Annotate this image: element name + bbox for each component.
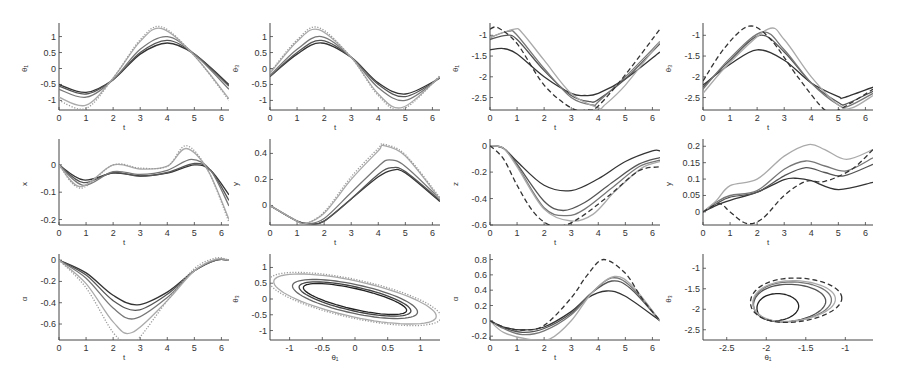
- x-tick-label: 3: [569, 113, 574, 123]
- x-tick-label: 1: [728, 228, 733, 238]
- x-axis-label: t: [554, 238, 557, 247]
- x-tick-label: 0: [267, 113, 272, 123]
- x-tick-label: 3: [138, 113, 143, 123]
- series-line-s1: [490, 48, 660, 95]
- y-axis-label: θ₃: [231, 65, 240, 73]
- y-axis-label: θ₁: [20, 65, 29, 72]
- series-line-s5: [59, 258, 229, 344]
- x-axis-label: θ₁: [764, 353, 771, 362]
- subplot-r2c1: 0123456-0.2-0.10tx: [20, 139, 229, 247]
- series-line-s4: [490, 29, 660, 110]
- series-line-s3: [59, 259, 229, 319]
- x-tick-label: 5: [623, 113, 628, 123]
- y-tick-label: 0.5: [254, 278, 267, 288]
- series-line-s3: [270, 160, 440, 224]
- x-tick-label: 5: [836, 113, 841, 123]
- subplot-r2c3: 0123456-0.6-0.4-0.20tz: [451, 139, 660, 247]
- x-tick-label: 6: [219, 113, 224, 123]
- x-tick-label: 4: [596, 228, 601, 238]
- y-tick-label: 1: [262, 262, 267, 272]
- y-tick-label: 0: [482, 316, 487, 326]
- y-tick-label: -0.4: [471, 194, 487, 204]
- y-tick-label: 0: [51, 255, 56, 265]
- series-line-s2: [703, 35, 873, 105]
- y-axis-label: y: [231, 182, 240, 186]
- subplot-r3c3: 0123456-0.200.20.40.60.8tα: [451, 254, 660, 362]
- series-line-s3: [703, 158, 873, 212]
- y-tick-label: -2.5: [684, 325, 700, 335]
- x-tick-label: 1: [728, 113, 733, 123]
- x-tick-label: -2: [762, 343, 770, 353]
- x-tick-label: 2: [755, 113, 760, 123]
- y-axis-label: θ₁: [451, 65, 460, 72]
- y-axis-label: θ₃: [664, 65, 673, 73]
- y-tick-label: 0: [262, 294, 267, 304]
- y-tick-label: 1: [51, 32, 56, 42]
- y-tick-label: 0.6: [474, 270, 487, 280]
- y-axis-label: α: [20, 296, 29, 301]
- subplot-r3c2: -1-0.500.51-1-0.500.51θ₁θ₃: [231, 254, 441, 362]
- x-tick-label: 6: [863, 228, 868, 238]
- x-tick-label: 5: [192, 343, 197, 353]
- x-tick-label: 5: [192, 228, 197, 238]
- x-tick-label: 1: [515, 343, 520, 353]
- x-tick-label: 0: [352, 343, 357, 353]
- y-tick-label: 0.15: [682, 158, 700, 168]
- x-tick-label: 1: [84, 343, 89, 353]
- y-tick-label: -0.2: [40, 215, 56, 225]
- y-tick-label: -0.1: [40, 187, 56, 197]
- x-axis-label: t: [334, 123, 337, 132]
- series-line-s5: [270, 27, 440, 110]
- x-tick-label: 5: [623, 343, 628, 353]
- subplot-r2c4: 012345600.050.10.150.2ty: [664, 139, 873, 247]
- x-tick-label: 0: [56, 343, 61, 353]
- y-tick-label: -0.2: [40, 276, 56, 286]
- y-tick-label: -1.5: [684, 51, 700, 61]
- x-tick-label: -2.5: [719, 343, 735, 353]
- x-tick-label: 4: [596, 343, 601, 353]
- x-tick-label: 2: [322, 228, 327, 238]
- x-tick-label: 6: [650, 343, 655, 353]
- x-tick-label: 0: [487, 113, 492, 123]
- x-tick-label: 4: [376, 228, 381, 238]
- y-axis-label: α: [451, 296, 460, 301]
- y-tick-label: -0.5: [40, 79, 56, 89]
- y-tick-label: -2.5: [471, 93, 487, 103]
- x-tick-label: 6: [430, 228, 435, 238]
- x-tick-label: 4: [809, 228, 814, 238]
- y-tick-label: -2: [692, 304, 700, 314]
- x-tick-label: 1: [295, 228, 300, 238]
- y-axis-label: y: [664, 182, 673, 186]
- y-tick-label: 0: [695, 207, 700, 217]
- y-tick-label: -1: [259, 95, 267, 105]
- x-axis-label: t: [334, 238, 337, 247]
- x-tick-label: 2: [111, 343, 116, 353]
- x-tick-label: 2: [322, 113, 327, 123]
- x-tick-label: 4: [596, 113, 601, 123]
- y-tick-label: -2: [692, 72, 700, 82]
- series-line-s4: [59, 258, 229, 333]
- series-line-s5: [270, 144, 440, 225]
- series-line-s1: [490, 146, 660, 191]
- series-line-s2: [490, 35, 660, 102]
- y-axis-label: z: [451, 182, 460, 186]
- subplot-r1c4: 0123456-2.5-2-1.5-1tθ₃: [664, 23, 873, 132]
- x-tick-label: -1: [286, 343, 294, 353]
- y-tick-label: 0.1: [687, 174, 700, 184]
- x-tick-label: 3: [782, 113, 787, 123]
- x-tick-label: 5: [403, 113, 408, 123]
- y-tick-label: 0.5: [254, 48, 267, 58]
- x-tick-label: 3: [138, 343, 143, 353]
- subplot-r1c1: 0123456-1-0.500.51tθ₁: [20, 23, 229, 132]
- x-tick-label: 5: [192, 113, 197, 123]
- x-tick-label: 1: [84, 228, 89, 238]
- x-tick-label: 3: [569, 343, 574, 353]
- orbit-s3: [293, 279, 418, 318]
- x-axis-label: t: [767, 238, 770, 247]
- x-tick-label: 6: [219, 343, 224, 353]
- x-tick-label: 4: [809, 113, 814, 123]
- y-tick-label: -2.5: [684, 93, 700, 103]
- x-tick-label: 1: [515, 228, 520, 238]
- x-tick-label: 2: [755, 228, 760, 238]
- subplot-r3c1: 0123456-0.6-0.4-0.20tα: [20, 254, 229, 362]
